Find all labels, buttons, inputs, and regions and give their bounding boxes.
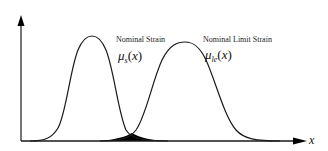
x-axis-arrow-icon [293,138,307,145]
x-axis-label: x [309,134,314,146]
nominal-limit-strain-symbol: μle(x) [205,48,232,64]
diagram-canvas: Nominal Strain μs(x) Nominal Limit Strai… [0,0,328,151]
nominal-limit-strain-title: Nominal Limit Strain [203,36,272,44]
nominal-strain-title: Nominal Strain [116,36,165,44]
nominal-strain-curve [30,36,168,141]
distribution-plot [0,0,328,151]
y-axis-arrow-icon [18,15,25,26]
nominal-strain-symbol: μs(x) [118,49,142,65]
